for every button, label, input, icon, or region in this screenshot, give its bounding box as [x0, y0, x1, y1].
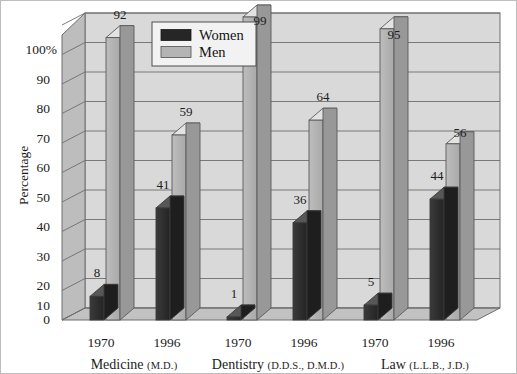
y-tick-50: 50	[0, 191, 50, 205]
y-tick-20: 20	[0, 279, 50, 293]
value-label-men-medicine-1996: 59	[171, 105, 201, 118]
x-tick-medicine-1970: 1970	[76, 336, 126, 350]
value-label-women-law-1996: 44	[422, 169, 452, 182]
group-label-law-name: Law	[381, 357, 406, 372]
chart-canvas	[0, 0, 517, 374]
x-tick-law-1996: 1996	[416, 336, 466, 350]
value-label-men-law-1970: 95	[379, 28, 409, 41]
group-label-dentistry-abbr: (D.D.S., D.M.D.)	[267, 360, 344, 371]
group-label-dentistry: Dentistry (D.D.S., D.M.D.)	[196, 358, 360, 372]
group-label-medicine-abbr: (M.D.)	[147, 360, 177, 371]
legend-swatch-men	[161, 47, 191, 58]
y-tick-70: 70	[0, 132, 50, 146]
value-label-men-medicine-1970: 92	[105, 8, 135, 21]
y-tick-60: 60	[0, 161, 50, 175]
bar-chart: Percentage 100% 90 80 70 60 50 40 30 20 …	[0, 0, 517, 374]
x-tick-dentistry-1970: 1970	[213, 336, 263, 350]
bar-women-dentistry-1996	[293, 211, 321, 320]
y-tick-10: 10	[0, 299, 50, 313]
value-label-men-dentistry-1970: 99	[245, 14, 275, 27]
y-tick-100: 100%	[0, 43, 57, 57]
y-tick-90: 90	[0, 73, 50, 87]
bar-women-medicine-1996	[156, 196, 184, 320]
group-label-law-abbr: (L.L.B., J.D.)	[409, 360, 469, 371]
bar-women-law-1996	[430, 187, 458, 320]
group-label-medicine: Medicine (M.D.)	[64, 358, 204, 372]
legend-label-women: Women	[199, 28, 244, 43]
value-label-women-law-1970: 5	[356, 275, 386, 288]
y-tick-80: 80	[0, 102, 50, 116]
x-tick-medicine-1996: 1996	[142, 336, 192, 350]
y-tick-40: 40	[0, 220, 50, 234]
x-tick-dentistry-1996: 1996	[279, 336, 329, 350]
value-label-women-dentistry-1970: 1	[219, 287, 249, 300]
value-label-women-medicine-1996: 41	[148, 178, 178, 191]
value-label-women-dentistry-1996: 36	[285, 193, 315, 206]
group-label-law: Law (L.L.B., J.D.)	[355, 358, 495, 372]
y-tick-30: 30	[0, 250, 50, 264]
value-label-men-dentistry-1996: 64	[308, 90, 338, 103]
group-label-dentistry-name: Dentistry	[212, 357, 264, 372]
value-label-women-medicine-1970: 8	[82, 266, 112, 279]
legend-swatch-women	[161, 30, 191, 41]
y-tick-0: 0	[0, 313, 50, 327]
x-tick-law-1970: 1970	[350, 336, 400, 350]
value-label-men-law-1996: 56	[445, 126, 475, 139]
group-label-medicine-name: Medicine	[91, 357, 144, 372]
legend-label-men: Men	[199, 45, 226, 60]
